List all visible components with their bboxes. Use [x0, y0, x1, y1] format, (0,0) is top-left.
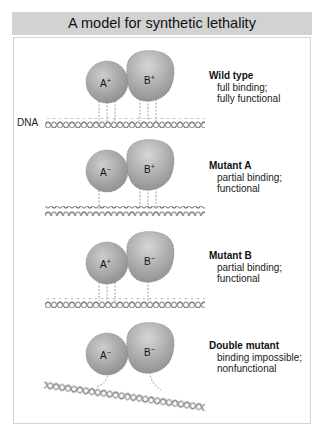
case-desc-line: binding impossible; [209, 352, 302, 364]
case-desc-line: partial binding; [209, 172, 282, 184]
case-wild-type: A+ B+ [45, 51, 205, 128]
case-desc-line: full binding; [209, 82, 280, 94]
case-mutant-a: A− B+ [45, 140, 205, 216]
dna-helix [45, 298, 205, 308]
label-mutant-a: Mutant A partial binding; functional [209, 160, 282, 195]
case-title: Mutant A [209, 160, 282, 172]
case-mutant-b: A+ B− [45, 232, 205, 308]
dna-helix [45, 206, 205, 216]
case-desc-line: fully functional [209, 93, 280, 105]
label-wild-type: Wild type full binding; fully functional [209, 70, 280, 105]
case-desc-line: functional [209, 273, 282, 285]
case-double-mutant: A− B− [44, 323, 206, 413]
dna-label: DNA [17, 117, 38, 128]
case-desc-line: functional [209, 183, 282, 195]
label-mutant-b: Mutant B partial binding; functional [209, 250, 282, 285]
case-title: Wild type [209, 70, 280, 82]
dna-helix [44, 380, 206, 412]
label-double-mutant: Double mutant binding impossible; nonfun… [209, 340, 302, 375]
case-desc-line: partial binding; [209, 262, 282, 274]
case-desc-line: nonfunctional [209, 363, 302, 375]
dna-helix [45, 118, 205, 128]
case-title: Double mutant [209, 340, 302, 352]
case-title: Mutant B [209, 250, 282, 262]
